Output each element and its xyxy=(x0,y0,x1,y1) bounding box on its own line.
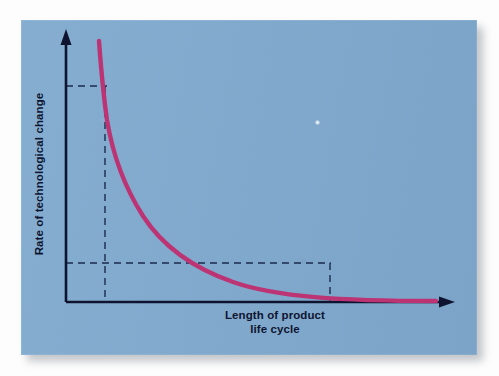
paper-speck-icon xyxy=(315,120,320,125)
y-axis-label: Rate of technological change xyxy=(33,64,45,284)
y-axis xyxy=(61,29,72,302)
x-axis-arrow-icon xyxy=(439,297,455,308)
technology-change-curve xyxy=(99,41,436,301)
x-axis-label: Length of product life cycle xyxy=(200,308,350,336)
x-axis-label-line1: Length of product xyxy=(225,309,325,321)
figure-root: Rate of technological change Length of p… xyxy=(0,0,499,376)
dashed-guideline-high-rate xyxy=(66,86,107,302)
y-axis-arrow-icon xyxy=(61,29,72,45)
chart-canvas xyxy=(21,20,477,355)
x-axis-label-line2: life cycle xyxy=(250,323,300,335)
